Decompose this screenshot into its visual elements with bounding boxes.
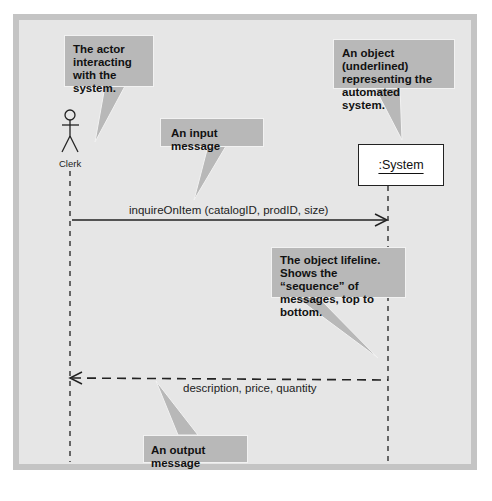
input-message-label: inquireOnItem (catalogID, prodID, size) — [129, 204, 328, 216]
object-name: :System — [378, 158, 423, 172]
output-message-label: description, price, quantity — [183, 382, 317, 394]
actor-note: The actor interacting with the system. — [64, 35, 154, 87]
object-note: An object (underlined) representing the … — [333, 39, 455, 89]
actor-stick-figure-icon — [62, 110, 79, 152]
lifeline-note: The object lifeline. Shows the “sequence… — [271, 247, 406, 298]
output-message-arrow — [72, 378, 388, 380]
input-note: An input message — [160, 118, 264, 147]
actor-name: Clerk — [59, 158, 81, 169]
system-object: :System — [358, 144, 444, 186]
output-note: An output message — [143, 435, 248, 463]
input-note-pointer — [194, 146, 226, 200]
